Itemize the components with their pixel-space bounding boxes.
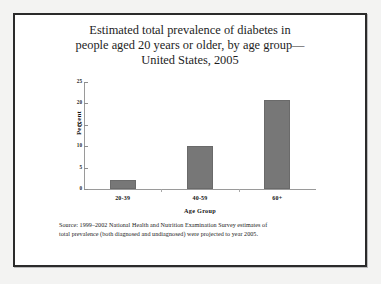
y-tick-15: 15 (84, 125, 88, 126)
bar-60+ (264, 100, 290, 189)
y-tick-mark (84, 168, 88, 169)
y-axis-line (84, 82, 85, 190)
x-axis-line (84, 189, 316, 190)
y-tick-mark (84, 125, 88, 126)
y-tick-label: 5 (79, 164, 82, 170)
source-note-line-2: total prevalence (both diagnosed and und… (59, 230, 329, 239)
x-label-40-59: 40-59 (161, 195, 238, 201)
x-label-60+: 60+ (239, 195, 316, 201)
y-tick-25: 25 (84, 82, 88, 83)
x-axis-divider (161, 189, 162, 192)
y-tick-mark (84, 146, 88, 147)
scanned-page: Estimated total prevalence of diabetes i… (0, 0, 381, 284)
y-axis-title: Percent (75, 111, 83, 135)
y-tick-label: 0 (79, 185, 82, 191)
figure-inner: Estimated total prevalence of diabetes i… (15, 15, 365, 265)
source-note: Source: 1999–2002 National Health and Nu… (59, 221, 329, 239)
source-note-line-1: Source: 1999–2002 National Health and Nu… (59, 221, 329, 230)
y-tick-label: 10 (77, 142, 82, 148)
y-tick-5: 5 (84, 168, 88, 169)
figure-frame: Estimated total prevalence of diabetes i… (13, 13, 367, 267)
x-label-20-39: 20-39 (84, 195, 161, 201)
bar-20-39 (110, 180, 136, 189)
y-tick-mark (84, 103, 88, 104)
x-axis-divider (239, 189, 240, 192)
y-tick-mark (84, 189, 88, 190)
y-tick-20: 20 (84, 103, 88, 104)
bar-40-59 (187, 146, 213, 189)
y-tick-label: 25 (77, 78, 82, 84)
x-axis-title: Age Group (84, 207, 316, 214)
y-tick-0: 0 (84, 189, 88, 190)
y-tick-10: 10 (84, 146, 88, 147)
y-tick-label: 20 (77, 99, 82, 105)
y-tick-mark (84, 82, 88, 83)
